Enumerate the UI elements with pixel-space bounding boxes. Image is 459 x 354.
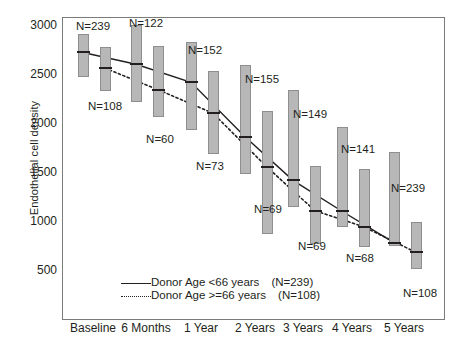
n-label-below: N=68 — [346, 252, 374, 264]
n-label-above: N=239 — [391, 182, 425, 194]
x-axis-tick-label: Baseline — [70, 321, 116, 335]
x-axis-tick-label: 1 Year — [184, 321, 218, 335]
legend-item-solid: Donor Age <66 years (N=239) — [119, 276, 320, 289]
n-label-below: N=69 — [298, 240, 326, 252]
median-marker — [388, 242, 401, 244]
median-marker — [77, 51, 90, 53]
legend-label-dotted: Donor Age >=66 years — [151, 289, 266, 302]
median-marker — [152, 89, 165, 91]
y-axis-tick-label: 2500 — [30, 67, 62, 81]
n-label-below: N=73 — [196, 160, 224, 172]
n-label-above: N=155 — [245, 73, 279, 85]
median-marker — [309, 210, 322, 212]
y-axis: 50010001500200025003000 — [0, 0, 62, 354]
n-label-below: N=108 — [403, 287, 437, 299]
x-axis-tick-label: 5 Years — [384, 321, 424, 335]
y-axis-tick-label: 500 — [37, 263, 62, 277]
n-label-below: N=108 — [88, 100, 122, 112]
x-axis-tick-label: 6 Months — [121, 321, 170, 335]
x-axis-tick-label: 2 Years — [235, 321, 275, 335]
range-bar — [389, 152, 400, 246]
n-label-above: N=149 — [293, 108, 327, 120]
range-bar — [262, 111, 273, 234]
legend-key-dotted-line — [119, 290, 151, 302]
range-bar — [359, 169, 370, 247]
range-bar — [78, 34, 89, 77]
y-axis-tick-label: 3000 — [30, 18, 62, 32]
legend-item-dotted: Donor Age >=66 years (N=108) — [119, 289, 320, 302]
x-axis-tick-label: 3 Years — [283, 321, 323, 335]
median-marker — [239, 136, 252, 138]
median-marker — [261, 166, 274, 168]
median-marker — [185, 81, 198, 83]
y-axis-tick-label: 1000 — [30, 214, 62, 228]
legend-label-solid: Donor Age <66 years — [151, 276, 259, 289]
y-axis-tick-label: 2000 — [30, 116, 62, 130]
n-label-above: N=239 — [76, 20, 110, 32]
range-bar — [337, 127, 348, 227]
median-marker — [336, 210, 349, 212]
plot-area — [62, 17, 445, 320]
y-axis-tick-label: 1500 — [30, 165, 62, 179]
legend: Donor Age <66 years (N=239) Donor Age >=… — [119, 276, 320, 302]
range-bar — [153, 46, 164, 118]
median-marker — [410, 251, 423, 253]
range-bar — [411, 222, 422, 270]
legend-n-dotted: (N=108) — [278, 289, 320, 302]
n-label-below: N=69 — [254, 203, 282, 215]
median-marker — [130, 63, 143, 65]
median-marker — [207, 112, 220, 114]
median-marker — [99, 67, 112, 69]
range-bar — [310, 166, 321, 243]
n-label-below: N=60 — [146, 133, 174, 145]
n-label-above: N=141 — [341, 143, 375, 155]
x-axis-tick-label: 4 Years — [332, 321, 372, 335]
n-label-above: N=152 — [188, 44, 222, 56]
chart-figure: Endothelial cell density 500100015002000… — [0, 0, 459, 354]
median-marker — [358, 226, 371, 228]
legend-n-solid: (N=239) — [271, 276, 313, 289]
legend-key-solid-line — [119, 277, 151, 289]
n-label-above: N=122 — [129, 17, 163, 29]
median-marker — [287, 179, 300, 181]
